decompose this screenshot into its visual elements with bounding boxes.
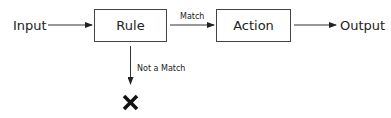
rule-flow-diagram: Input Rule Match Action Output Not a Mat… bbox=[0, 0, 391, 118]
not-match-label: Not a Match bbox=[137, 64, 185, 73]
action-label: Action bbox=[233, 18, 274, 33]
output-label: Output bbox=[340, 18, 385, 33]
rule-box: Rule bbox=[95, 10, 167, 42]
match-label: Match bbox=[180, 12, 204, 21]
x-mark-icon bbox=[124, 96, 137, 109]
input-label: Input bbox=[13, 18, 47, 33]
action-box: Action bbox=[217, 10, 291, 42]
rule-label: Rule bbox=[116, 18, 144, 33]
